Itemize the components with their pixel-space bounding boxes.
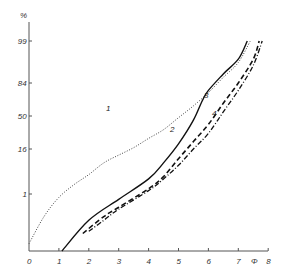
curve-label-1: 1	[106, 104, 110, 113]
curve-labels: 1 2 3 4	[106, 91, 217, 134]
x-axis-label: Φ	[251, 257, 258, 266]
x-tick-label: 2	[86, 257, 92, 266]
x-tick-label: 6	[206, 257, 211, 266]
y-ticks: 998450161	[18, 37, 32, 199]
x-tick-label: 1	[57, 257, 61, 266]
x-tick-label: 7	[236, 257, 241, 266]
y-tick-label: 50	[18, 112, 27, 121]
curve-3	[83, 41, 259, 234]
y-tick-label: 84	[18, 79, 27, 88]
x-tick-label: 0	[27, 257, 32, 266]
curve-2	[62, 41, 247, 251]
y-tick-label: 16	[18, 145, 27, 154]
y-axis-label: %	[20, 11, 27, 20]
y-tick-label: 1	[22, 190, 26, 199]
x-tick-label: 3	[117, 257, 122, 266]
x-tick-label: 4	[147, 257, 152, 266]
curve-label-4: 4	[212, 109, 217, 118]
x-tick-label: 5	[177, 257, 182, 266]
y-tick-label: 99	[18, 37, 27, 46]
curve-label-3: 3	[204, 91, 209, 100]
curve-1	[29, 41, 250, 244]
curve-label-2: 2	[169, 125, 175, 134]
x-tick-label: 8	[266, 257, 271, 266]
curves	[29, 41, 262, 251]
chart: % Φ 012345678 998450161 1 2 3 4	[0, 0, 282, 276]
axes: % Φ	[20, 11, 268, 266]
